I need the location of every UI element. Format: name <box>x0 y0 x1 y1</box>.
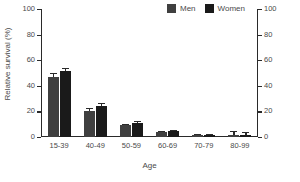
error-bar-women <box>168 130 179 131</box>
y-tick-right <box>258 111 262 112</box>
y-tick-label-right: 20 <box>264 107 272 115</box>
y-tick-left <box>37 86 41 87</box>
y-tick-left <box>37 60 41 61</box>
bar-women[interactable] <box>60 71 71 137</box>
x-tick-label: 60-69 <box>150 142 186 150</box>
bar-men[interactable] <box>84 111 95 137</box>
y-tick-label-right: 60 <box>264 56 272 64</box>
bar-women[interactable] <box>240 135 251 137</box>
bar-women[interactable] <box>96 106 107 137</box>
x-tick-label: 80-99 <box>222 142 258 150</box>
bar-women[interactable] <box>132 123 143 137</box>
y-axis-right-spine <box>257 9 258 137</box>
y-tick-left <box>37 9 41 10</box>
error-bar-men <box>192 134 203 135</box>
x-axis-spine <box>41 136 258 137</box>
error-bar-men <box>48 73 59 77</box>
plot-area: 020406080100 020406080100 <box>41 9 258 137</box>
x-tick-label: 40-49 <box>77 142 113 150</box>
y-tick-right <box>258 35 262 36</box>
y-tick-label-left: 40 <box>27 82 35 90</box>
y-axis-title: Relative survival (%) <box>2 0 14 128</box>
x-tick-label: 70-79 <box>186 142 222 150</box>
y-tick-right <box>258 86 262 87</box>
error-bar-women <box>132 121 143 123</box>
y-tick-label-left: 0 <box>31 133 35 141</box>
y-tick-label-left: 20 <box>27 107 35 115</box>
bar-group <box>120 9 143 137</box>
y-tick-right <box>258 137 262 138</box>
bar-women[interactable] <box>204 135 215 137</box>
y-axis-left-spine <box>41 9 42 137</box>
error-bar-women <box>96 103 107 106</box>
error-bar-women <box>240 132 251 135</box>
bar-men[interactable] <box>156 132 167 137</box>
bar-men[interactable] <box>228 135 239 137</box>
x-tick-label: 15-39 <box>41 142 77 150</box>
bar-men[interactable] <box>120 125 131 137</box>
bar-group <box>48 9 71 137</box>
error-bar-men <box>84 108 95 111</box>
y-tick-left <box>37 111 41 112</box>
x-tick-label: 50-59 <box>113 142 149 150</box>
bar-group <box>156 9 179 137</box>
bar-group <box>84 9 107 137</box>
error-bar-women <box>204 134 215 135</box>
bar-men[interactable] <box>192 135 203 137</box>
bar-group <box>192 9 215 137</box>
error-bar-men <box>156 131 167 132</box>
y-tick-left <box>37 35 41 36</box>
y-tick-label-left: 60 <box>27 56 35 64</box>
y-tick-right <box>258 60 262 61</box>
y-tick-right <box>258 9 262 10</box>
error-bar-women <box>60 68 71 71</box>
y-tick-label-left: 100 <box>22 5 35 13</box>
bar-women[interactable] <box>168 131 179 137</box>
chart-figure: Men Women Relative survival (%) 02040608… <box>0 0 300 182</box>
y-tick-label-left: 80 <box>27 31 35 39</box>
bar-group <box>228 9 251 137</box>
error-bar-men <box>228 131 239 135</box>
bar-men[interactable] <box>48 77 59 137</box>
error-bar-men <box>120 124 131 126</box>
x-axis-title: Age <box>41 162 258 170</box>
y-tick-label-right: 100 <box>264 5 277 13</box>
y-tick-label-right: 80 <box>264 31 272 39</box>
y-tick-label-right: 0 <box>264 133 268 141</box>
y-tick-label-right: 40 <box>264 82 272 90</box>
y-tick-left <box>37 137 41 138</box>
